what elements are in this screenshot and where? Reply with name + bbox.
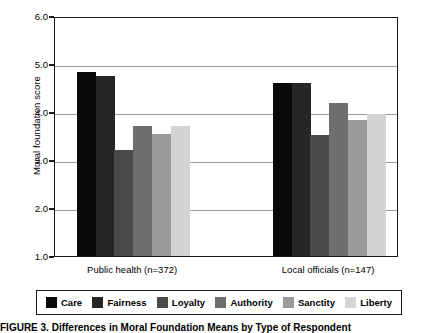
y-tick-mark bbox=[49, 112, 54, 113]
legend-label: Care bbox=[61, 297, 82, 308]
legend-item: Care bbox=[46, 297, 82, 308]
legend-label: Loyalty bbox=[172, 297, 205, 308]
y-tick-label: 5.0 bbox=[22, 60, 48, 70]
legend-label: Sanctity bbox=[298, 297, 335, 308]
y-tick-label: 4.0 bbox=[22, 108, 48, 118]
legend-item: Liberty bbox=[345, 297, 392, 308]
figure-container: Moral foundation score 1.02.03.04.05.06.… bbox=[0, 0, 437, 333]
y-tick-mark bbox=[49, 64, 54, 65]
y-tick-mark bbox=[49, 160, 54, 161]
y-tick-label: 3.0 bbox=[22, 156, 48, 166]
legend-swatch-icon bbox=[345, 297, 356, 308]
y-tick-label: 6.0 bbox=[22, 12, 48, 22]
legend-swatch-icon bbox=[46, 297, 57, 308]
legend-label: Authority bbox=[230, 297, 272, 308]
y-tick-mark bbox=[49, 16, 54, 17]
y-axis-tick-marks bbox=[54, 17, 398, 257]
y-axis-tick-labels: 1.02.03.04.05.06.0 bbox=[18, 0, 48, 333]
y-tick-mark bbox=[49, 256, 54, 257]
legend-item: Sanctity bbox=[283, 297, 335, 308]
y-tick-mark bbox=[49, 208, 54, 209]
chart-legend: CareFairnessLoyaltyAuthoritySanctityLibe… bbox=[36, 290, 402, 315]
legend-item: Loyalty bbox=[157, 297, 205, 308]
legend-item: Authority bbox=[215, 297, 272, 308]
group-label: Public health (n=372) bbox=[52, 264, 212, 275]
y-tick-label: 2.0 bbox=[22, 204, 48, 214]
group-label: Local officials (n=147) bbox=[248, 264, 408, 275]
legend-swatch-icon bbox=[157, 297, 168, 308]
y-tick-label: 1.0 bbox=[22, 252, 48, 262]
legend-label: Fairness bbox=[107, 297, 146, 308]
legend-swatch-icon bbox=[215, 297, 226, 308]
legend-swatch-icon bbox=[283, 297, 294, 308]
figure-caption: FIGURE 3. Differences in Moral Foundatio… bbox=[0, 322, 437, 333]
legend-label: Liberty bbox=[360, 297, 392, 308]
legend-swatch-icon bbox=[92, 297, 103, 308]
legend-item: Fairness bbox=[92, 297, 146, 308]
